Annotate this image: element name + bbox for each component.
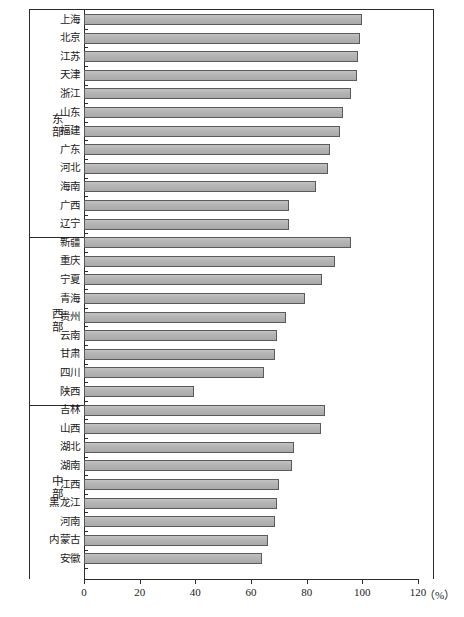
category-label: 河南 (29, 516, 84, 528)
category-label: 甘肃 (29, 348, 84, 360)
category-label: 贵州 (29, 311, 84, 323)
category-tick (84, 531, 88, 532)
bar (84, 423, 321, 434)
bar (84, 330, 277, 341)
bar (84, 460, 292, 471)
bar (84, 33, 360, 44)
category-tick (84, 382, 88, 383)
bar-chart: 东部西部中部 上海北京江苏天津浙江山东福建广东河北海南广西辽宁新疆重庆宁夏青海贵… (0, 0, 464, 617)
x-tick-label: 80 (301, 586, 312, 598)
x-tick-label: 100 (354, 586, 371, 598)
bar (84, 126, 340, 137)
bar (84, 553, 262, 564)
x-tick-label: 40 (190, 586, 201, 598)
category-tick (84, 364, 88, 365)
bar (84, 386, 194, 397)
category-tick (84, 326, 88, 327)
category-tick (84, 178, 88, 179)
category-label: 吉林 (29, 404, 84, 416)
category-tick (84, 233, 88, 234)
category-tick (84, 271, 88, 272)
category-label: 辽宁 (29, 218, 84, 230)
category-label: 青海 (29, 293, 84, 305)
category-label: 天津 (29, 69, 84, 81)
bar (84, 219, 289, 230)
category-label: 江苏 (29, 51, 84, 63)
x-axis-unit-label: （%） (424, 586, 455, 602)
bar (84, 293, 305, 304)
bar (84, 312, 286, 323)
x-tick (418, 579, 419, 584)
x-tick (307, 579, 308, 584)
bar (84, 144, 330, 155)
category-tick (84, 159, 88, 160)
bar (84, 163, 328, 174)
category-tick (84, 438, 88, 439)
bar (84, 367, 264, 378)
category-tick (84, 401, 88, 402)
category-tick (84, 475, 88, 476)
bar (84, 51, 358, 62)
category-label: 广西 (29, 200, 84, 212)
category-tick (84, 289, 88, 290)
bar (84, 88, 351, 99)
category-tick (84, 494, 88, 495)
category-label: 山东 (29, 107, 84, 119)
category-tick (84, 47, 88, 48)
category-tick (84, 196, 88, 197)
x-tick-label: 0 (81, 586, 87, 598)
x-tick (84, 579, 85, 584)
bar (84, 498, 277, 509)
category-label: 海南 (29, 181, 84, 193)
category-label: 湖北 (29, 441, 84, 453)
category-label: 上海 (29, 14, 84, 26)
category-label: 重庆 (29, 255, 84, 267)
category-tick (84, 457, 88, 458)
x-tick (195, 579, 196, 584)
category-label: 陕西 (29, 386, 84, 398)
category-label: 山西 (29, 423, 84, 435)
category-tick (84, 345, 88, 346)
x-tick (251, 579, 252, 584)
x-tick-label: 60 (246, 586, 257, 598)
category-label: 四川 (29, 367, 84, 379)
bar (84, 349, 275, 360)
bar (84, 535, 268, 546)
category-label: 湖南 (29, 460, 84, 472)
bar (84, 107, 343, 118)
category-tick (84, 140, 88, 141)
category-tick (84, 66, 88, 67)
category-tick (84, 512, 88, 513)
category-tick (84, 308, 88, 309)
x-tick (362, 579, 363, 584)
category-label: 广东 (29, 144, 84, 156)
category-tick (84, 252, 88, 253)
x-tick-label: 20 (134, 586, 145, 598)
category-label: 福建 (29, 125, 84, 137)
x-tick (140, 579, 141, 584)
bar (84, 442, 294, 453)
bar (84, 200, 289, 211)
category-tick (84, 122, 88, 123)
category-tick (84, 550, 88, 551)
category-label: 新疆 (29, 237, 84, 249)
category-label: 安徽 (29, 553, 84, 565)
category-tick (84, 103, 88, 104)
category-label: 河北 (29, 162, 84, 174)
category-tick (84, 215, 88, 216)
category-tick (84, 568, 88, 569)
category-label: 江西 (29, 479, 84, 491)
bar (84, 14, 362, 25)
category-label: 浙江 (29, 88, 84, 100)
plot-area (84, 9, 434, 579)
category-tick (84, 419, 88, 420)
bar (84, 516, 275, 527)
bar (84, 479, 279, 490)
bar (84, 256, 335, 267)
bar (84, 274, 322, 285)
category-label: 内蒙古 (29, 534, 84, 546)
category-tick (84, 85, 88, 86)
category-label: 云南 (29, 330, 84, 342)
bar (84, 70, 357, 81)
category-tick (84, 29, 88, 30)
